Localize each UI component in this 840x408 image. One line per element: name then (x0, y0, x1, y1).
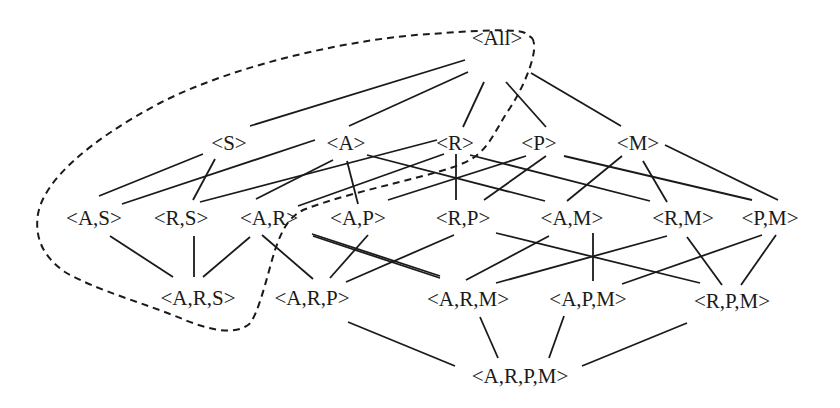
edge-All-S (250, 60, 465, 126)
edge-P-AP (388, 156, 526, 200)
edge-M-PM (665, 145, 778, 200)
edge-All-P (506, 82, 546, 127)
edge-A-AP (347, 161, 358, 204)
edge-AM-ARM (466, 236, 549, 280)
node-AP: <A,P> (330, 208, 386, 229)
edge-All-M (531, 73, 621, 126)
node-PM: <P,M> (742, 208, 799, 229)
node-A: <A> (327, 133, 366, 154)
edge-All-R (463, 82, 484, 127)
node-AM: <A,M> (541, 208, 604, 229)
edge-ARM-ARPM (480, 317, 498, 358)
node-ARP: <A,R,P> (274, 288, 349, 309)
edge-RM-ARM (496, 236, 667, 283)
edge-P-PM (564, 156, 752, 200)
node-R: <R> (436, 133, 474, 154)
node-M: <M> (617, 133, 659, 154)
edges-layer (0, 0, 840, 408)
edge-M-RM (643, 161, 667, 202)
node-S: <S> (211, 133, 246, 154)
edge-AR-ARP (262, 235, 313, 279)
node-ARPM: <A,R,P,M> (472, 366, 569, 387)
edge-All-A (349, 72, 468, 126)
node-AR: <A,R> (240, 208, 298, 229)
lattice-diagram: <All><S><A><R><P><M><A,S><R,S><A,R><A,P>… (0, 0, 840, 408)
edge-S-AS (99, 154, 203, 196)
edge-AR-ARS (203, 237, 250, 277)
node-All: <All> (472, 28, 523, 49)
edge-ARP-ARPM (348, 322, 455, 366)
edge-RPM-ARPM (582, 323, 687, 366)
node-RM: <R,M> (652, 208, 714, 229)
node-ARM: <A,R,M> (427, 289, 509, 310)
node-RS: <R,S> (154, 208, 209, 229)
edge-APM-ARPM (549, 316, 564, 358)
edge-AS-ARS (110, 236, 173, 277)
node-P: <P> (521, 133, 556, 154)
edge-PM-RPM (741, 235, 776, 285)
edge-RM-RPM (687, 237, 722, 285)
edge-A-AR (256, 160, 333, 199)
node-RPM: <R,P,M> (694, 291, 770, 312)
node-ARS: <A,R,S> (160, 288, 235, 309)
edge-R-AR (298, 154, 444, 206)
edge-AR-ARM (313, 236, 440, 278)
node-APM: <A,P,M> (549, 289, 626, 310)
edge-R-RM (470, 155, 650, 201)
node-AS: <A,S> (66, 208, 122, 229)
node-RP: <R,P> (436, 208, 491, 229)
